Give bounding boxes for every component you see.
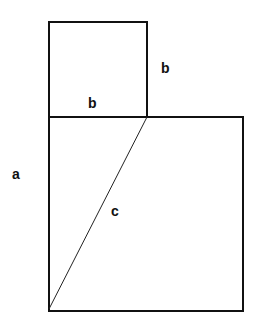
large-square	[49, 117, 243, 311]
label-b-bottom: b	[88, 96, 97, 110]
label-c: c	[111, 204, 119, 218]
geometry-diagram	[0, 0, 261, 334]
diagonal-c	[49, 117, 147, 309]
label-b-right: b	[161, 61, 170, 75]
small-square	[49, 22, 147, 117]
label-a: a	[12, 167, 20, 181]
